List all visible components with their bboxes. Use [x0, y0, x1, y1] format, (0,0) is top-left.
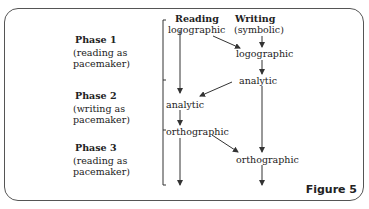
writing-column-header: Writing [235, 13, 275, 24]
phase1-desc2: pacemaker) [73, 58, 130, 69]
reading-orthographic: orthographic [166, 126, 229, 137]
figure-label: Figure 5 [306, 183, 357, 196]
phase1-desc1: (reading as [73, 47, 127, 58]
phase3-bracket [163, 130, 166, 185]
writing-symbolic: (symbolic) [234, 24, 284, 35]
writing-analytic: analytic [239, 75, 277, 86]
phase3-desc1: (reading as [73, 155, 127, 166]
phase2-desc2: pacemaker) [73, 114, 130, 125]
reading-analytic: analytic [166, 99, 204, 110]
writing-logographic: logographic [236, 48, 293, 59]
writing-orthographic: orthographic [236, 154, 299, 165]
reading-logographic: logographic [168, 24, 225, 35]
phase1-bracket [163, 20, 166, 80]
phase3-title: Phase 3 [75, 142, 117, 153]
reading-column-header: Reading [175, 13, 219, 24]
phase1-title: Phase 1 [75, 34, 117, 45]
phase2-desc1: (writing as [73, 103, 125, 114]
phase3-desc2: pacemaker) [73, 166, 130, 177]
phase2-title: Phase 2 [75, 90, 117, 101]
